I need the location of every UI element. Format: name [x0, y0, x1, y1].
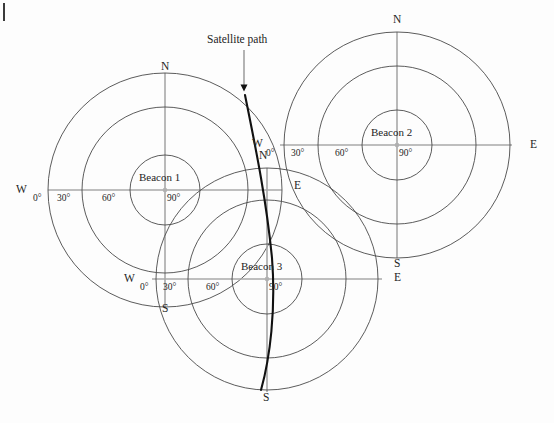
beacon-3-cardinal-w: W: [124, 273, 135, 285]
beacon-2-center-dot: [395, 143, 400, 148]
beacon-1-tick-0: 0°: [33, 194, 42, 204]
beacon-3-cardinal-e: E: [294, 180, 301, 192]
beacon-3-center-dot: [265, 277, 270, 282]
beacon-3-cardinal-s-left: S: [162, 303, 168, 315]
beacon-1-tick-90: 90°: [167, 194, 180, 204]
beacon-1-center-dot: [163, 188, 168, 193]
beacon-1-name-label: Beacon 1: [139, 172, 180, 183]
beacon-1-cardinal-n: N: [161, 61, 169, 73]
beacon-2-cardinal-n: N: [393, 14, 401, 26]
beacon-2-tick-60: 60°: [335, 149, 348, 159]
figure-canvas: Satellite path Beacon 1 N W 0° 30° 60° 9…: [0, 0, 554, 423]
diagram-svg: [0, 0, 554, 423]
beacon-1-cardinal-w: W: [16, 184, 27, 196]
beacon-3-tick-90: 90°: [269, 283, 282, 293]
beacon-2-cardinal-e: E: [530, 139, 537, 151]
overlap-cardinal-e-right: E: [394, 272, 401, 284]
beacon-2-group: [280, 32, 512, 258]
beacon-1-tick-30: 30°: [57, 194, 70, 204]
beacon-2-name-label: Beacon 2: [371, 127, 412, 138]
beacon-3-cardinal-s-bottom: S: [263, 392, 269, 404]
beacon-3-tick-30: 30°: [163, 283, 176, 293]
overlap-cardinal-s-right: S: [394, 258, 400, 270]
beacon-3-name-label: Beacon 3: [241, 261, 282, 272]
beacon-3-tick-60: 60°: [206, 283, 219, 293]
satellite-path-label: Satellite path: [207, 34, 267, 46]
overlap-cardinal-w: W: [252, 138, 263, 150]
beacon-3-tick-0: 0°: [140, 283, 149, 293]
beacon-2-tick-90: 90°: [399, 149, 412, 159]
overlap-cardinal-n: N: [259, 150, 267, 162]
beacon-1-tick-60: 60°: [102, 194, 115, 204]
beacon-2-tick-30: 30°: [291, 149, 304, 159]
